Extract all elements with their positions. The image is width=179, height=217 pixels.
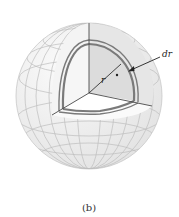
thickness-label: dr (162, 49, 173, 59)
cutaway-octant (52, 23, 154, 120)
radius-label: r (101, 75, 106, 85)
shell-point-marker (116, 74, 118, 76)
sphere-shell-diagram: r dr (b) (0, 0, 179, 217)
figure-caption: (b) (82, 202, 96, 213)
